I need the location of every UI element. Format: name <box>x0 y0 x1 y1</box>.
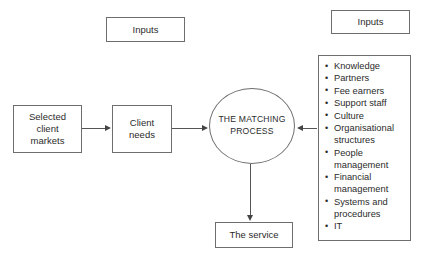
resource-list-item: Organisational structures <box>325 123 406 147</box>
resource-list-item: Partners <box>325 73 406 85</box>
resource-list-item: Knowledge <box>325 61 406 73</box>
arrow-process-to-service-head-icon <box>247 215 253 221</box>
matching-process-line-2: MATCHING <box>239 114 286 124</box>
the-service-label: The service <box>229 229 278 241</box>
inputs-left-box: Inputs <box>106 17 185 42</box>
selected-client-markets-line-2: client <box>29 123 66 135</box>
inputs-right-label: Inputs <box>358 16 384 28</box>
resource-list-item: Support staff <box>325 98 406 110</box>
the-service-box: The service <box>215 222 293 248</box>
arrow-markets-to-needs-head-icon <box>105 125 111 131</box>
client-needs-line-2: needs <box>129 129 155 141</box>
arrow-resources-to-process-head-icon <box>297 125 303 131</box>
resource-list-item: IT <box>325 221 406 233</box>
inputs-right-box: Inputs <box>331 10 410 34</box>
arrow-needs-to-process-line <box>172 128 203 129</box>
client-needs-box: Client needs <box>112 105 172 153</box>
resource-list-item: Culture <box>325 111 406 123</box>
inputs-left-label: Inputs <box>133 24 159 36</box>
resource-list-item: Financial management <box>325 172 406 196</box>
diagram-canvas: Inputs Inputs Selected client markets Cl… <box>0 0 423 259</box>
matching-process-line-3: PROCESS <box>230 126 273 136</box>
selected-client-markets-line-1: Selected <box>29 111 66 123</box>
matching-process-label: THE MATCHING PROCESS <box>210 114 294 137</box>
resources-box: KnowledgePartnersFee earnersSupport staf… <box>318 55 411 241</box>
selected-client-markets-line-3: markets <box>29 135 66 147</box>
arrow-markets-to-needs-line <box>82 128 106 129</box>
client-needs-line-1: Client <box>129 117 155 129</box>
client-needs-label: Client needs <box>129 117 155 141</box>
arrow-needs-to-process-head-icon <box>202 125 208 131</box>
resource-list-item: Fee earners <box>325 86 406 98</box>
resource-list-item: People management <box>325 148 406 172</box>
resources-list: KnowledgePartnersFee earnersSupport staf… <box>325 61 406 233</box>
resource-list-item: Systems and procedures <box>325 197 406 221</box>
selected-client-markets-box: Selected client markets <box>13 105 82 153</box>
selected-client-markets-label: Selected client markets <box>29 111 66 147</box>
matching-process-ellipse: THE MATCHING PROCESS <box>209 88 295 164</box>
arrow-process-to-service-line <box>250 164 251 216</box>
matching-process-line-1: THE <box>218 114 236 124</box>
